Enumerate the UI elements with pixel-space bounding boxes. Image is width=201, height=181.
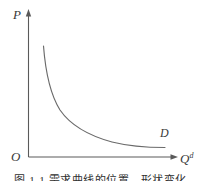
demand-curve bbox=[44, 46, 166, 148]
origin-label: O bbox=[11, 150, 20, 163]
x-axis-label-superscript: d bbox=[189, 151, 193, 160]
y-axis-arrowhead bbox=[26, 9, 31, 17]
y-axis-label: P bbox=[13, 8, 21, 21]
x-axis-arrowhead bbox=[171, 154, 179, 159]
x-axis-label: Qd bbox=[180, 152, 193, 165]
plot-area bbox=[0, 0, 201, 181]
x-axis-label-base: Q bbox=[180, 151, 189, 166]
figure-caption: 图 1-1 需求曲线的位置、形状变化 bbox=[0, 171, 201, 181]
demand-curve-figure: P O Qd D 图 1-1 需求曲线的位置、形状变化 bbox=[0, 0, 201, 181]
demand-curve-label: D bbox=[160, 127, 169, 139]
